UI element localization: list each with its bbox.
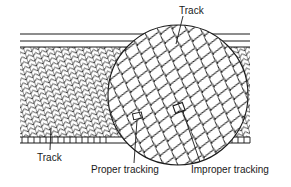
magnified-circle [100,20,260,170]
label-track-top: Track [179,6,204,16]
label-proper-tracking: Proper tracking [91,165,159,175]
label-track-bottom: Track [37,153,62,163]
tape-tracking-diagram: Track Track Proper tracking Improper tra… [0,0,291,187]
label-improper-tracking: Improper tracking [191,165,269,175]
